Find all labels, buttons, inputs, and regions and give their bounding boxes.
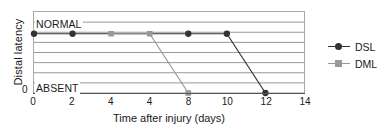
y-category-label-normal: NORMAL xyxy=(35,18,83,30)
x-axis-tick-label: 4 xyxy=(108,96,114,107)
chart-legend: DSLDML xyxy=(328,38,384,72)
x-axis-tick-label: 8 xyxy=(186,96,192,107)
y-axis-tick-0: 0 xyxy=(22,84,28,95)
chart-figure: Distal latency 0 NORMAL ABSENT 024481012… xyxy=(0,0,385,133)
data-point xyxy=(185,31,191,37)
x-axis-tick-label: 0 xyxy=(30,96,36,107)
legend-label: DSL xyxy=(355,41,375,53)
x-axis-tick-label: 14 xyxy=(299,96,310,107)
legend-item-dml[interactable]: DML xyxy=(328,55,384,72)
data-point xyxy=(147,31,153,37)
data-point xyxy=(31,31,37,37)
legend-item-dsl[interactable]: DSL xyxy=(328,38,384,55)
x-axis-tick-label: 4 xyxy=(147,96,153,107)
legend-marker-icon xyxy=(328,58,350,69)
x-axis-tick-label: 2 xyxy=(69,96,75,107)
legend-marker-icon xyxy=(328,41,350,52)
x-axis-tick-label: 10 xyxy=(222,96,233,107)
y-category-label-absent: ABSENT xyxy=(35,82,80,94)
data-point xyxy=(69,31,75,37)
legend-label: DML xyxy=(355,58,377,70)
data-point xyxy=(108,31,114,37)
x-axis-title: Time after injury (days) xyxy=(33,112,305,124)
x-axis-tick-label: 12 xyxy=(261,96,272,107)
data-point xyxy=(224,31,230,37)
series-line xyxy=(111,34,188,93)
series-dml xyxy=(108,31,191,96)
